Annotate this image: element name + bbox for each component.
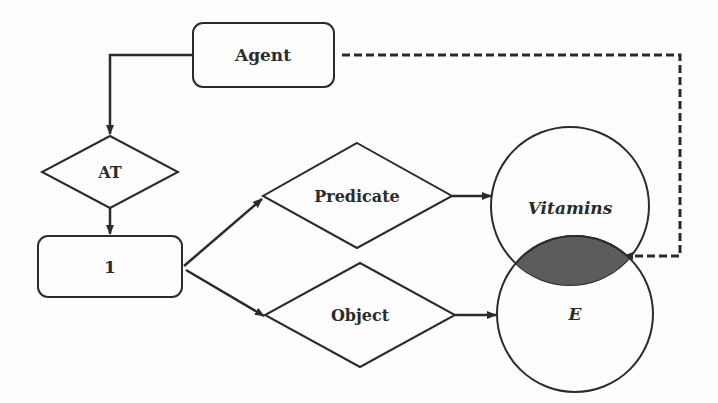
node-one-label: 1	[104, 257, 116, 277]
node-at: AT	[42, 136, 178, 208]
node-e-label: E	[568, 304, 583, 324]
edge-agent-to-at	[110, 55, 193, 134]
node-vitamins-label: Vitamins	[528, 198, 613, 218]
node-agent: Agent	[193, 23, 334, 87]
edge-1-to-object	[186, 270, 264, 316]
node-object: Object	[265, 263, 455, 367]
diagram-canvas: Agent AT 1 Predicate Object Vitamins E	[0, 0, 718, 403]
node-one: 1	[38, 236, 182, 297]
edge-1-to-predicate	[184, 199, 262, 266]
node-predicate: Predicate	[263, 143, 452, 248]
node-object-label: Object	[331, 306, 390, 325]
node-predicate-label: Predicate	[314, 187, 400, 206]
node-agent-label: Agent	[234, 45, 291, 65]
node-at-label: AT	[97, 163, 122, 182]
